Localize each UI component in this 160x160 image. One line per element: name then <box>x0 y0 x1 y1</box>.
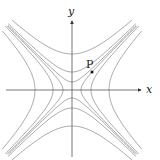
y-axis-label: y <box>67 5 75 18</box>
point-p-label: P <box>86 58 94 71</box>
x-axis-label: x <box>146 83 153 96</box>
hyperbola-diagram: x y P <box>0 0 160 160</box>
